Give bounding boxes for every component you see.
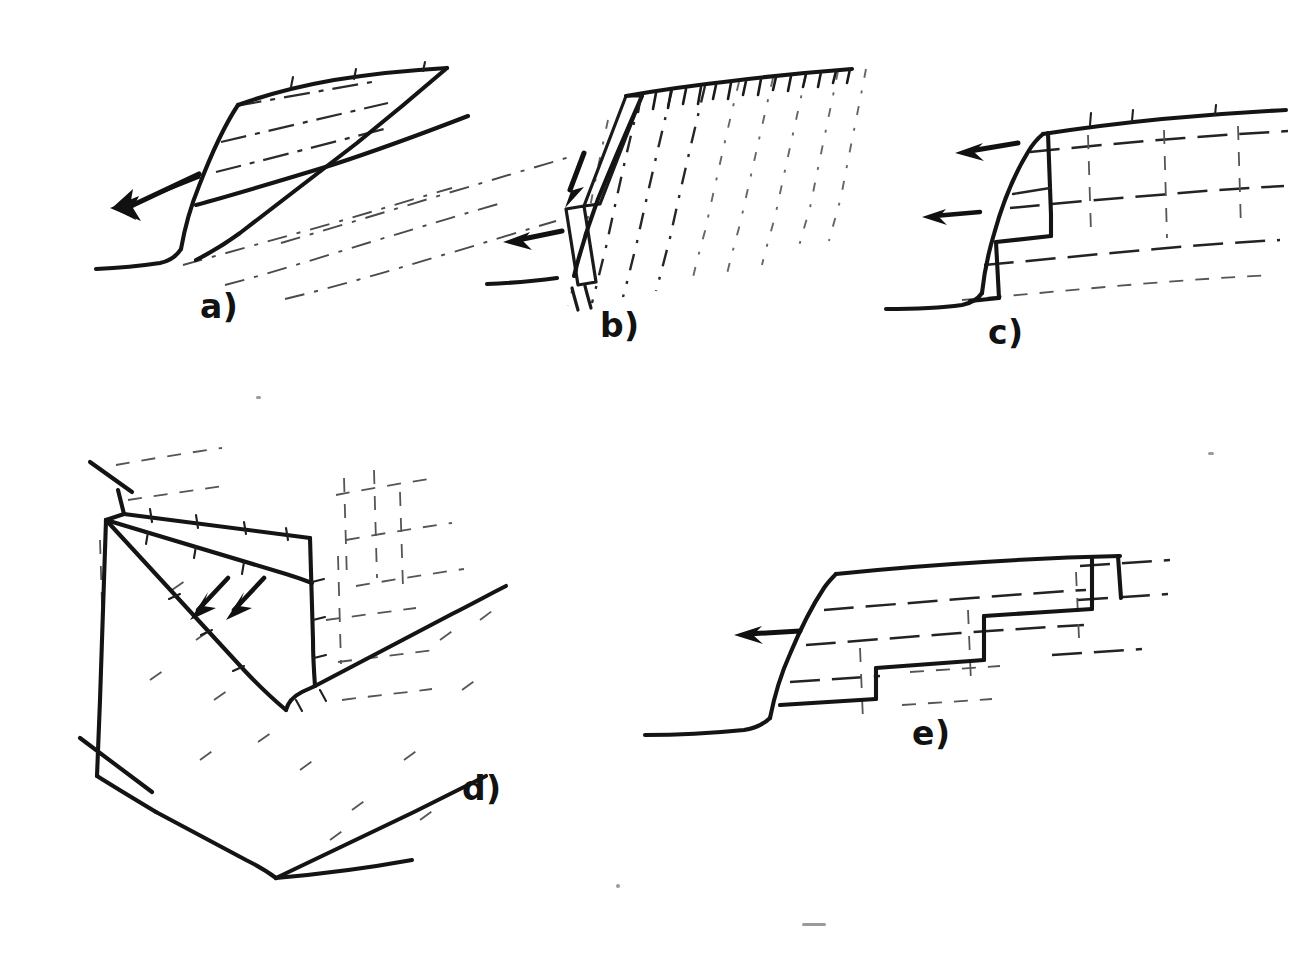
panel-d-vertical-joints-right (100, 470, 403, 664)
panel-a-joint-set-upper (216, 82, 388, 172)
panel-c-arrow-upper (955, 143, 1018, 161)
panel-e-slope-face (770, 574, 836, 718)
panel-d-arrow-2 (226, 578, 264, 620)
panel-a-plane-failure: a) (96, 62, 573, 326)
panel-b-joint-set (568, 69, 866, 306)
panel-d-label: d) (462, 769, 502, 808)
panel-c-upper-block (1048, 133, 1051, 236)
panel-d-surface-hatches (150, 576, 496, 840)
figure-canvas: a) (0, 0, 1314, 955)
panel-b-toppling-failure: b) (487, 69, 866, 345)
panel-b-toe-splay (572, 288, 578, 310)
panel-d-valley-right (276, 776, 486, 878)
panel-a-joint-set-lower (183, 156, 573, 299)
panel-c-upper-bedding (1013, 188, 1050, 194)
panel-d-wedge-failure: d) (80, 448, 506, 878)
panel-c-step-failure: c) (886, 105, 1288, 352)
panel-e-label: e) (912, 714, 950, 753)
panel-e-ground-line (645, 718, 770, 735)
panel-e-bench-3 (984, 609, 1092, 616)
panel-d-face-right-edge (310, 538, 315, 686)
panel-b-crest-ticks (638, 69, 850, 112)
panel-d-wedge-lower-left-vertex (97, 776, 156, 812)
panel-c-slope-face (982, 134, 1043, 293)
panel-e-vertical-joints (860, 572, 1079, 720)
panel-a-ground-line (96, 249, 181, 269)
panel-a-label: a) (200, 287, 238, 326)
panel-c-vertical-joints (1088, 126, 1241, 238)
panel-d-back-scarp (118, 490, 124, 514)
panel-b-arrow-upper (565, 153, 584, 208)
panel-d-valley-left (156, 812, 276, 878)
panel-d-valley-left-spur (80, 738, 152, 792)
panel-c-upper-bench (996, 236, 1051, 242)
panel-e-crest-line (836, 556, 1120, 574)
panel-c-arrow-lower (922, 209, 980, 225)
panel-d-right-slope-crest (315, 586, 506, 686)
panel-d-arrow-1 (190, 578, 228, 620)
panel-d-back-ridge (90, 462, 132, 492)
scan-artefacts (256, 396, 1214, 926)
panel-b-label: b) (600, 306, 640, 345)
panel-c-ground-line (886, 293, 982, 309)
panel-b-ground-line (487, 278, 557, 284)
panel-b-toe-splay-2 (585, 286, 591, 308)
panel-d-wedge-plane-left (97, 520, 106, 776)
panel-e-bench-2 (876, 660, 984, 668)
panel-c-label: c) (988, 313, 1024, 352)
panel-e-stepped-failure: e) (645, 556, 1170, 753)
panel-c-lower-block (996, 242, 999, 298)
slope-failure-diagram: a) (0, 0, 1314, 955)
panel-e-bedding-traces (790, 560, 1170, 705)
panel-e-arrow (734, 626, 800, 644)
panel-e-back-joint (1118, 556, 1121, 598)
